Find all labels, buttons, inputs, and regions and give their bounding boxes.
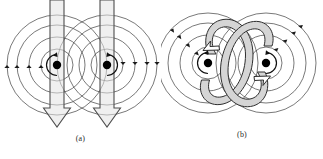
conductor-dot bbox=[103, 61, 111, 69]
field-arrowhead-icon bbox=[26, 65, 31, 68]
field-arrowhead-icon bbox=[132, 62, 137, 65]
panel-b-caption: (b) bbox=[161, 130, 323, 139]
rotation-marker-right-b bbox=[262, 50, 277, 73]
field-arrowheads-right-a bbox=[120, 62, 159, 65]
field-arrowheads-left-a bbox=[4, 65, 43, 68]
field-arrowhead-icon bbox=[14, 65, 19, 68]
conductor-dot bbox=[204, 59, 212, 67]
conductor-dot bbox=[53, 61, 61, 69]
conductor-dot bbox=[262, 59, 270, 67]
figure-root: (a) (b) bbox=[0, 0, 323, 159]
panel-a-caption: (a) bbox=[0, 134, 161, 143]
panel-a-content bbox=[4, 0, 159, 127]
field-arrowhead-icon bbox=[274, 48, 279, 52]
field-arrowheads-right-b bbox=[274, 25, 303, 52]
field-arrowhead-icon bbox=[4, 65, 9, 68]
panel-b-content bbox=[161, 13, 316, 113]
field-arrowhead-icon bbox=[120, 62, 125, 65]
field-arrowhead-icon bbox=[144, 62, 149, 65]
field-arrowhead-icon bbox=[154, 62, 159, 65]
field-arrowhead-icon bbox=[38, 65, 43, 68]
